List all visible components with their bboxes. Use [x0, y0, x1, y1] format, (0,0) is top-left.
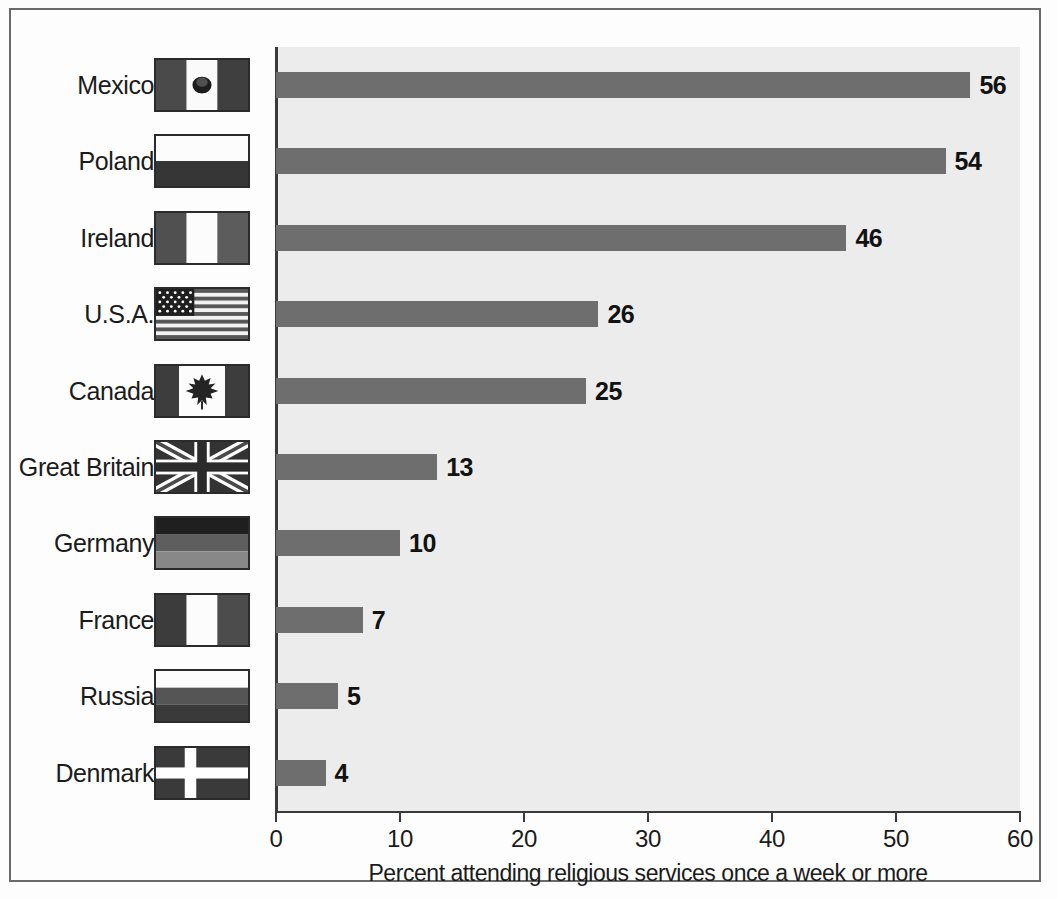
- country-label: France: [79, 605, 154, 634]
- bar: [276, 148, 946, 174]
- bar: [276, 225, 846, 251]
- flag-mexico-icon: [154, 58, 250, 112]
- x-axis-title: Percent attending religious services onc…: [276, 860, 1020, 887]
- bar-value-label: 5: [347, 682, 360, 711]
- bar-value-label: 7: [372, 605, 385, 634]
- country-label: U.S.A.: [84, 300, 154, 329]
- flag-russia-icon: [154, 669, 250, 723]
- bar: [276, 72, 970, 98]
- flag-canada-icon: [154, 364, 250, 418]
- bar: [276, 530, 400, 556]
- flag-great-britain-icon: [154, 440, 250, 494]
- bar-value-label: 56: [979, 71, 1006, 100]
- x-tick-label: 60: [1007, 825, 1033, 853]
- country-label: Great Britain: [19, 453, 154, 482]
- flag-germany-icon: [154, 516, 250, 570]
- x-tick-mark: [275, 811, 277, 822]
- flag-usa-icon: [154, 287, 250, 341]
- bar-value-label: 25: [595, 376, 622, 405]
- x-tick-label: 20: [511, 825, 537, 853]
- chart-figure: Mexico 56Poland 54Ireland 46U.S.A.: [0, 0, 1057, 899]
- bar: [276, 454, 437, 480]
- country-label: Denmark: [55, 758, 154, 787]
- bar-row: U.S.A. 26: [11, 276, 1043, 352]
- x-tick-label: 30: [635, 825, 661, 853]
- x-tick-mark: [523, 811, 525, 822]
- figure-frame: Mexico 56Poland 54Ireland 46U.S.A.: [9, 8, 1041, 882]
- country-label: Russia: [80, 682, 154, 711]
- bar-value-label: 10: [409, 529, 436, 558]
- x-tick-label: 50: [883, 825, 909, 853]
- x-tick-label: 40: [759, 825, 785, 853]
- x-tick-label: 10: [387, 825, 413, 853]
- country-label: Mexico: [77, 71, 154, 100]
- x-tick-label: 0: [269, 825, 282, 853]
- bar-value-label: 46: [855, 223, 882, 252]
- country-label: Poland: [79, 147, 154, 176]
- bar-value-label: 54: [955, 147, 982, 176]
- bar-value-label: 26: [607, 300, 634, 329]
- bar-row: Ireland 46: [11, 200, 1043, 276]
- x-tick-mark: [399, 811, 401, 822]
- x-tick-mark: [771, 811, 773, 822]
- bar: [276, 378, 586, 404]
- flag-ireland-icon: [154, 211, 250, 265]
- bar-row: Russia 5: [11, 658, 1043, 734]
- bar: [276, 301, 598, 327]
- bar: [276, 683, 338, 709]
- country-label: Ireland: [80, 223, 154, 252]
- country-label: Canada: [69, 376, 154, 405]
- x-tick-mark: [895, 811, 897, 822]
- bar-row: Poland 54: [11, 123, 1043, 199]
- bar-value-label: 13: [446, 453, 473, 482]
- flag-denmark-icon: [154, 746, 250, 800]
- x-tick-mark: [647, 811, 649, 822]
- bar-row: Denmark 4: [11, 735, 1043, 811]
- bar-value-label: 4: [335, 758, 348, 787]
- bar: [276, 607, 363, 633]
- bar-row: Mexico 56: [11, 47, 1043, 123]
- country-label: Germany: [54, 529, 154, 558]
- bar-row: France 7: [11, 582, 1043, 658]
- bar: [276, 760, 326, 786]
- flag-poland-icon: [154, 134, 250, 188]
- bar-row: Germany 10: [11, 505, 1043, 581]
- bar-row: Great Britain 13: [11, 429, 1043, 505]
- x-tick-mark: [1019, 811, 1021, 822]
- bar-row: Canada 25: [11, 353, 1043, 429]
- flag-france-icon: [154, 593, 250, 647]
